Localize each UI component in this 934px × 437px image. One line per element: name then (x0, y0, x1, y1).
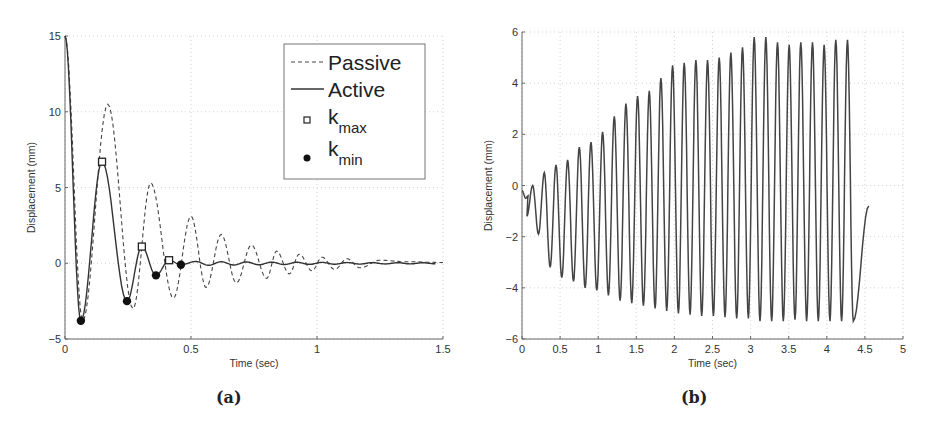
x-tick-label: 2.5 (705, 343, 720, 355)
kmin-marker (177, 261, 185, 269)
x-axis-label: Time (sec) (688, 357, 737, 369)
y-tick-label: 10 (49, 106, 61, 118)
legend-kmax-swatch (304, 117, 310, 123)
kmax-marker (99, 158, 106, 165)
y-tick-label: 0 (55, 257, 61, 269)
y-tick-label: 4 (512, 77, 518, 89)
x-tick-label: 4 (824, 343, 830, 355)
x-tick-label: 1 (314, 343, 320, 355)
x-tick-label: 1.5 (435, 343, 450, 355)
caption-b: (b) (681, 388, 707, 407)
x-tick-label: 3 (748, 343, 754, 355)
legend-passive-label: Passive (328, 51, 402, 74)
legend-kmin-swatch (304, 155, 311, 162)
x-tick-label: 5 (900, 343, 906, 355)
legend: PassiveActivekmaxkmin (284, 44, 425, 179)
x-tick-label: 0.5 (552, 343, 567, 355)
legend-active-label: Active (328, 78, 385, 101)
displacement-line (522, 37, 869, 321)
x-tick-label: 1 (595, 343, 601, 355)
y-axis-label: Displacement (mm) (482, 140, 494, 231)
y-tick-label: −6 (505, 333, 518, 345)
y-tick-label: 2 (512, 128, 518, 140)
x-tick-label: 0 (519, 343, 525, 355)
kmin-marker (123, 297, 131, 305)
kmin-marker (152, 271, 160, 279)
x-tick-label: 3.5 (781, 343, 796, 355)
kmax-marker (166, 257, 173, 264)
kmin-marker (77, 317, 85, 325)
y-tick-label: −5 (48, 333, 61, 345)
plot-b: 00.511.522.533.544.55−6−4−20246Time (sec… (482, 26, 906, 369)
y-tick-label: −4 (505, 282, 518, 294)
x-axis-label: Time (sec) (229, 357, 278, 369)
kmax-marker (138, 243, 145, 250)
caption-a: (a) (216, 388, 242, 407)
y-axis-label: Displacement (mm) (25, 142, 37, 233)
y-tick-label: 15 (49, 30, 61, 42)
figure: 00.511.5−5051015Time (sec)Displacement (… (0, 0, 934, 437)
x-tick-label: 4.5 (857, 343, 872, 355)
x-tick-label: 0 (62, 343, 68, 355)
y-tick-label: 5 (55, 182, 61, 194)
x-tick-label: 2 (671, 343, 677, 355)
x-tick-label: 0.5 (183, 343, 198, 355)
y-tick-label: 6 (512, 26, 518, 38)
x-tick-label: 1.5 (629, 343, 644, 355)
plot-a: 00.511.5−5051015Time (sec)Displacement (… (25, 30, 451, 369)
y-tick-label: 0 (512, 180, 518, 192)
y-tick-label: −2 (505, 231, 518, 243)
